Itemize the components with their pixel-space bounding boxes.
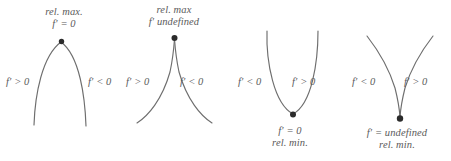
panel-smooth-minimum: f′ < 0 f′ > 0 f′ = 0 rel. min. [230,0,342,161]
panel-3-caption-line-2: rel. min. [240,137,340,149]
panel-2-extremum-point [172,35,178,41]
panel-smooth-maximum: rel. max. f′ = 0 f′ > 0 f′ < 0 [0,0,118,161]
figure-root: rel. max. f′ = 0 f′ > 0 f′ < 0 rel. max … [0,0,451,161]
panel-4-caption-line-1: f′ = undefined [345,127,449,139]
panel-3-caption-line-1: f′ = 0 [240,125,340,137]
panel-3-extremum-point [290,112,296,118]
panel-4-caption-line-2: rel. min. [345,139,449,151]
panel-1-left-sign: f′ > 0 [6,76,29,88]
panel-4-left-sign: f′ < 0 [352,76,375,88]
panel-3-bottom-caption: f′ = 0 rel. min. [240,125,340,150]
panel-4-right-sign: f′ > 0 [404,76,427,88]
panel-1-extremum-point [59,39,64,44]
panel-3-parabola-path [267,31,318,114]
panel-cusp-minimum: f′ < 0 f′ > 0 f′ = undefined rel. min. [342,0,451,161]
panel-cusp-maximum: rel. max f′ undefined f′ > 0 f′ < 0 [118,0,230,161]
panel-1-parabola-path [34,42,86,126]
panel-2-left-sign: f′ > 0 [126,76,149,88]
panel-3-right-sign: f′ > 0 [292,76,315,88]
panel-2-right-sign: f′ < 0 [180,76,203,88]
panel-1-right-sign: f′ < 0 [88,76,111,88]
panel-3-left-sign: f′ < 0 [238,76,261,88]
panel-4-extremum-point [397,115,403,121]
panel-4-bottom-caption: f′ = undefined rel. min. [345,127,449,152]
